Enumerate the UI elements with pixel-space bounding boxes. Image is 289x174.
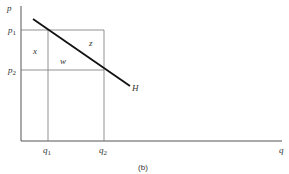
region-z-label: z bbox=[88, 38, 93, 48]
x-axis-label: q bbox=[279, 145, 284, 155]
y-axis-label: p bbox=[6, 3, 12, 13]
region-x-label: x bbox=[32, 46, 37, 56]
q1-label: q1 bbox=[43, 145, 52, 157]
p2-label: p2 bbox=[7, 65, 17, 77]
figure-caption: (b) bbox=[138, 163, 148, 172]
h-curve-label: H bbox=[131, 83, 139, 93]
diagram-canvas: p q p1 p2 q1 q2 x w z H (b) bbox=[0, 0, 289, 174]
q2-label: q2 bbox=[99, 145, 108, 157]
p1-label: p1 bbox=[7, 25, 17, 37]
h-curve bbox=[33, 19, 130, 86]
region-w-label: w bbox=[60, 56, 66, 66]
